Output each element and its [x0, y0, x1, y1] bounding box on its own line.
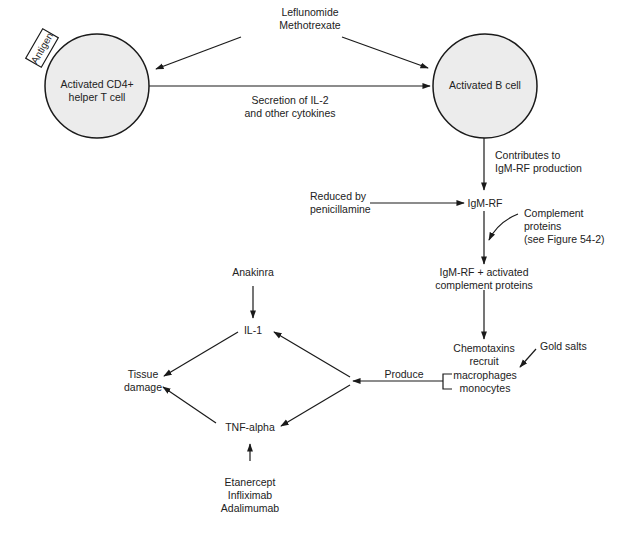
penicillamine-text: penicillamine — [310, 203, 371, 216]
tnf-alpha-text: TNF-alpha — [225, 421, 275, 433]
contributes-label: Contributes to IgM-RF production — [495, 149, 582, 175]
il1-label: IL-1 — [244, 324, 262, 337]
gold-salts-text: Gold salts — [540, 340, 587, 352]
chemotaxins-text: Chemotaxins — [453, 342, 514, 355]
macrophages-text: macrophages — [453, 369, 517, 382]
igm-rf-label: IgM-RF — [468, 197, 503, 210]
arrow-tnf-to-tissue — [163, 387, 216, 423]
anakinra-label: Anakinra — [232, 266, 273, 279]
t-cell-text-1: Activated CD4+ — [60, 78, 133, 91]
infliximab-text: Infliximab — [221, 489, 279, 502]
secretion-label: Secretion of IL-2 and other cytokines — [244, 94, 335, 120]
reduced-by-label: Reduced by penicillamine — [310, 190, 371, 216]
arrow-gold-salts — [520, 349, 536, 367]
igm-rf-complement-text-1: IgM-RF + activated — [435, 266, 532, 279]
produce-text: Produce — [384, 368, 423, 380]
gold-salts-label: Gold salts — [540, 340, 587, 353]
reduced-by-text: Reduced by — [310, 190, 371, 203]
complement-text-2: proteins — [524, 220, 605, 233]
t-cell-label: Activated CD4+ helper T cell — [60, 78, 133, 104]
macrophages-label: macrophages monocytes — [453, 369, 517, 395]
igm-rf-complement-label: IgM-RF + activated complement proteins — [435, 266, 532, 292]
chemotaxins-label: Chemotaxins recruit — [453, 342, 514, 368]
complement-text-1: Complement — [524, 207, 605, 220]
arrow-drugs-to-bcell — [342, 37, 428, 68]
arrow-to-il1 — [274, 332, 350, 377]
b-cell-label: Activated B cell — [449, 79, 521, 92]
leflunomide-text: Leflunomide — [279, 6, 340, 19]
arrow-complement-curve — [489, 214, 518, 240]
bracket — [443, 374, 452, 389]
etanercept-text: Etanercept — [221, 476, 279, 489]
igm-rf-complement-text-2: complement proteins — [435, 279, 532, 292]
contributes-text-1: Contributes to — [495, 149, 582, 162]
adalimumab-text: Adalimumab — [221, 502, 279, 515]
recruit-text: recruit — [453, 355, 514, 368]
monocytes-text: monocytes — [453, 382, 517, 395]
anakinra-text: Anakinra — [232, 266, 273, 278]
arrow-il1-to-tissue — [164, 332, 238, 376]
il1-text: IL-1 — [244, 324, 262, 336]
tissue-text: Tissue — [124, 368, 162, 381]
tissue-damage-label: Tissue damage — [124, 368, 162, 394]
secretion-text-2: and other cytokines — [244, 107, 335, 120]
produce-label: Produce — [384, 368, 423, 381]
methotrexate-text: Methotrexate — [279, 19, 340, 32]
igm-rf-text: IgM-RF — [468, 197, 503, 209]
arrow-drugs-to-tcell — [156, 37, 241, 69]
contributes-text-2: IgM-RF production — [495, 162, 582, 175]
arrow-to-tnf — [281, 385, 350, 426]
drugs-top-label: Leflunomide Methotrexate — [279, 6, 340, 32]
t-cell-text-2: helper T cell — [60, 91, 133, 104]
b-cell-text: Activated B cell — [449, 79, 521, 91]
complement-text-3: (see Figure 54-2) — [524, 233, 605, 246]
anti-tnf-label: Etanercept Infliximab Adalimumab — [221, 476, 279, 515]
tnf-alpha-label: TNF-alpha — [225, 421, 275, 434]
complement-label: Complement proteins (see Figure 54-2) — [524, 207, 605, 246]
secretion-text-1: Secretion of IL-2 — [244, 94, 335, 107]
damage-text: damage — [124, 381, 162, 394]
